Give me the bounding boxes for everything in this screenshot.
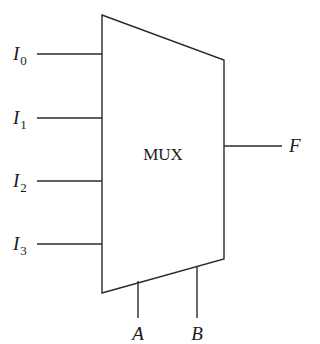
select-a: A xyxy=(130,281,144,344)
input-label-i2: I2 xyxy=(12,170,27,195)
input-i2: I2 xyxy=(12,170,102,195)
output-label-f: F xyxy=(288,135,301,156)
select-label-b: B xyxy=(191,323,203,344)
input-i0: I0 xyxy=(12,43,102,68)
input-label-i3: I3 xyxy=(12,233,27,258)
input-i3: I3 xyxy=(12,233,102,258)
input-i1: I1 xyxy=(12,107,102,132)
input-label-i0: I0 xyxy=(12,43,27,68)
select-b: B xyxy=(191,266,203,344)
mux-diagram: MUX I0 I1 I2 I3 F A B xyxy=(0,0,320,344)
mux-label: MUX xyxy=(143,145,183,164)
output-f: F xyxy=(224,135,301,156)
select-label-a: A xyxy=(130,323,144,344)
input-label-i1: I1 xyxy=(12,107,27,132)
